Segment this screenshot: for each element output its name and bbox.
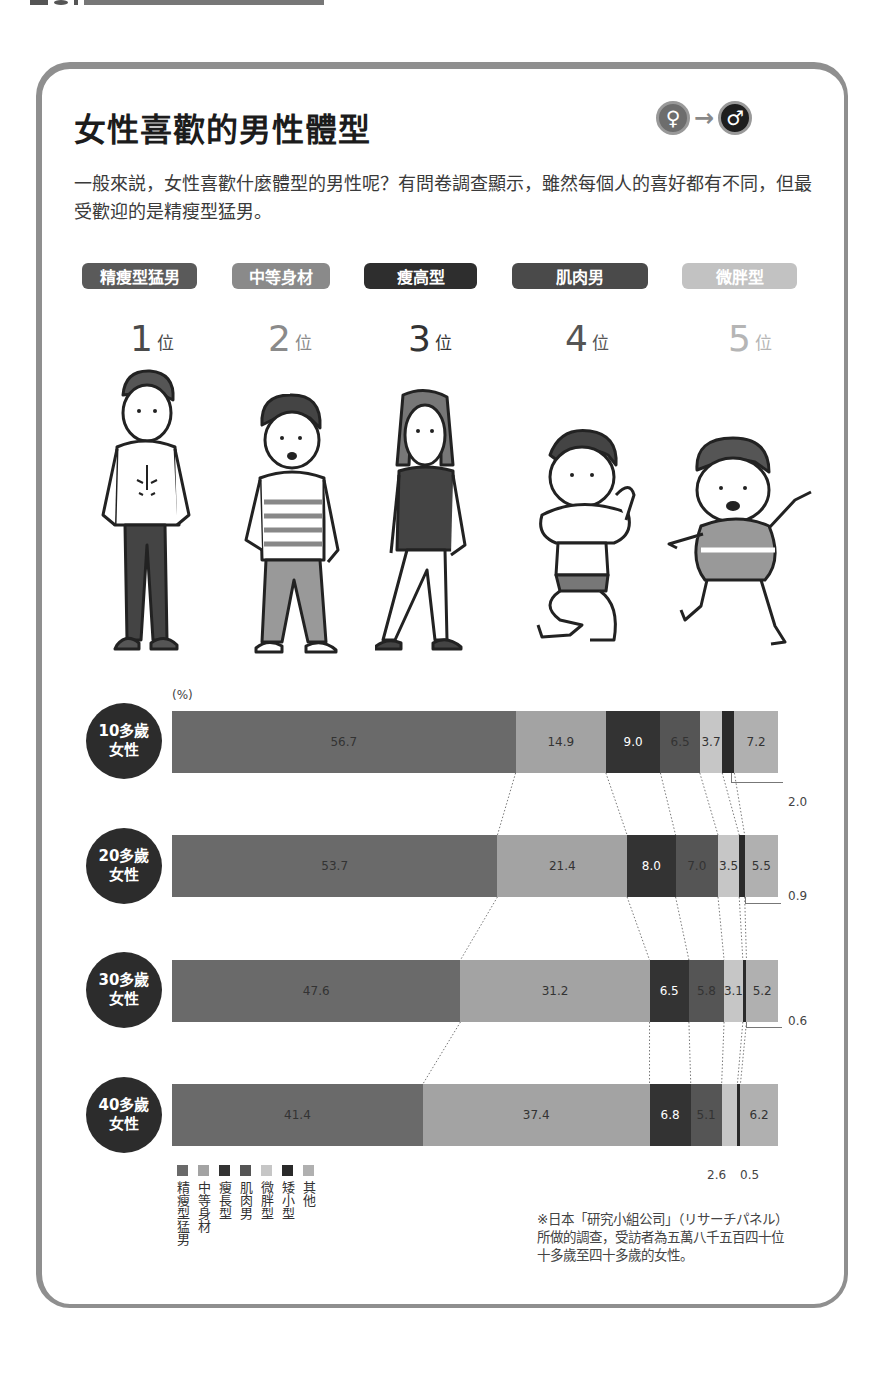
legend-item: 肌肉男 — [237, 1165, 254, 1246]
legend-swatch — [261, 1165, 272, 1176]
legend-label: 微胖型 — [259, 1181, 274, 1220]
legend-label: 瘦長型 — [217, 1181, 232, 1220]
legend-label: 矮小型 — [280, 1181, 295, 1220]
legend-item: 精瘦型猛男 — [174, 1165, 191, 1246]
callout-line — [746, 1022, 782, 1028]
callout-value-20s-short: 0.9 — [788, 889, 807, 903]
legend-swatch — [219, 1165, 230, 1176]
legend-swatch — [303, 1165, 314, 1176]
legend-swatch — [198, 1165, 209, 1176]
legend-swatch — [240, 1165, 251, 1176]
legend-label: 中等身材 — [196, 1181, 211, 1233]
legend-item: 瘦長型 — [216, 1165, 233, 1246]
callout-line — [731, 773, 783, 783]
source-note: ※日本「研究小組公司」（リサーチパネル）所做的調查，受訪者為五萬八千五百四十位十… — [537, 1210, 787, 1264]
callout-line — [745, 897, 781, 904]
legend-item: 其他 — [300, 1165, 317, 1246]
callout-value-40s-short: 0.5 — [740, 1168, 759, 1182]
legend-label: 精瘦型猛男 — [175, 1181, 190, 1246]
legend-swatch — [282, 1165, 293, 1176]
legend-item: 矮小型 — [279, 1165, 296, 1246]
callout-value-30s-short: 0.6 — [788, 1014, 807, 1028]
legend-item: 微胖型 — [258, 1165, 275, 1246]
chart-legend: 精瘦型猛男 中等身材 瘦長型 肌肉男 微胖型 矮小型 其他 — [174, 1165, 317, 1246]
legend-swatch — [177, 1165, 188, 1176]
legend-label: 其他 — [301, 1181, 316, 1207]
legend-label: 肌肉男 — [238, 1181, 253, 1220]
callout-value-10s-short: 2.0 — [788, 795, 807, 809]
legend-item: 中等身材 — [195, 1165, 212, 1246]
callout-value-40s-chubby: 2.6 — [707, 1168, 726, 1182]
